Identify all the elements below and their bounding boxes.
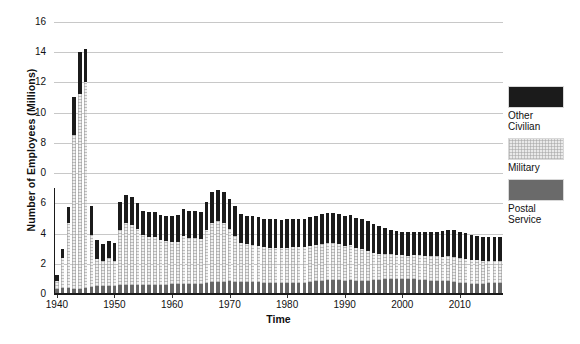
bar-segment-military <box>372 253 376 281</box>
bar-segment-military <box>61 258 65 289</box>
bar-segment-military <box>291 247 295 282</box>
bar-2000 <box>400 232 404 294</box>
bar-segment-other-civilian <box>118 202 122 230</box>
bar-segment-military <box>360 249 364 280</box>
bar-1971 <box>233 206 237 294</box>
bar-segment-other-civilian <box>360 219 364 249</box>
bar-segment-military <box>470 260 474 284</box>
plot-area <box>54 22 503 294</box>
bar-segment-postal-service <box>377 280 381 294</box>
bar-segment-military <box>349 245 353 280</box>
bar-segment-military <box>308 246 312 282</box>
bar-segment-other-civilian <box>95 240 99 259</box>
bar-segment-postal-service <box>326 280 330 294</box>
bar-segment-military <box>418 255 422 279</box>
bar-segment-postal-service <box>349 280 353 294</box>
bar-segment-other-civilian <box>314 216 318 245</box>
bar-segment-military <box>216 221 220 281</box>
y-tick-label: 8 <box>40 138 46 148</box>
bar-segment-other-civilian <box>470 235 474 260</box>
bar-1985 <box>314 216 318 294</box>
bar-1965 <box>199 212 203 294</box>
bar-1963 <box>187 211 191 294</box>
bar-1990 <box>343 216 347 294</box>
bar-segment-other-civilian <box>400 232 404 256</box>
bar-segment-other-civilian <box>101 244 105 261</box>
y-tick-label: 10 <box>35 108 46 118</box>
x-tick-label: 1940 <box>46 299 68 310</box>
bar-2010 <box>458 232 462 294</box>
bar-2014 <box>481 237 485 294</box>
legend-label: Military <box>508 162 574 173</box>
bar-segment-other-civilian <box>262 219 266 247</box>
bar-2006 <box>435 232 439 294</box>
bar-1952 <box>124 195 128 294</box>
bar-segment-other-civilian <box>418 232 422 255</box>
bar-2015 <box>487 237 491 294</box>
bar-segment-postal-service <box>389 279 393 294</box>
bar-segment-other-civilian <box>331 213 335 243</box>
bar-segment-military <box>412 255 416 279</box>
bar-1941 <box>61 249 65 294</box>
bar-segment-postal-service <box>406 279 410 294</box>
bar-segment-other-civilian <box>239 214 243 243</box>
bar-1996 <box>377 226 381 294</box>
bar-1973 <box>245 216 249 294</box>
bar-segment-other-civilian <box>412 232 416 255</box>
bar-segment-postal-service <box>360 281 364 294</box>
bar-segment-military <box>464 259 468 283</box>
bar-1961 <box>176 215 180 294</box>
bar-1953 <box>130 197 134 294</box>
bar-segment-other-civilian <box>366 221 370 251</box>
bar-segment-other-civilian <box>124 195 128 224</box>
bar-segment-other-civilian <box>372 224 376 253</box>
legend-item-other[interactable]: Other Civilian <box>508 86 574 132</box>
y-tick-label: 6 <box>40 198 46 208</box>
bar-segment-military <box>101 261 105 286</box>
bar-segment-other-civilian <box>113 243 117 261</box>
bar-segment-other-civilian <box>458 232 462 258</box>
x-tick-label: 2010 <box>449 299 471 310</box>
bar-segment-military <box>395 255 399 279</box>
bar-segment-other-civilian <box>136 203 140 229</box>
bar-segment-other-civilian <box>257 217 261 246</box>
bar-segment-military <box>314 245 318 282</box>
bar-segment-military <box>320 244 324 281</box>
bar-segment-other-civilian <box>228 199 232 229</box>
legend-item-post[interactable]: Postal Service <box>508 179 574 225</box>
bar-segment-military <box>458 258 462 282</box>
bar-segment-other-civilian <box>164 216 168 241</box>
bar-segment-military <box>141 235 145 285</box>
bar-1940 <box>55 275 59 294</box>
bar-2016 <box>493 237 497 294</box>
y-tick-label: 12 <box>35 77 46 87</box>
bar-segment-military <box>205 230 209 283</box>
bar-segment-military <box>354 248 358 280</box>
bar-segment-military <box>153 237 157 285</box>
bar-segment-military <box>337 244 341 280</box>
x-tick-mark <box>230 295 231 298</box>
bar-segment-other-civilian <box>61 249 65 258</box>
bar-1988 <box>331 213 335 294</box>
bar-segment-other-civilian <box>193 211 197 238</box>
bar-segment-other-civilian <box>90 206 94 235</box>
bar-segment-other-civilian <box>291 219 295 247</box>
bar-1945 <box>84 49 88 294</box>
bar-segment-military <box>423 256 427 280</box>
bar-segment-other-civilian <box>141 211 145 236</box>
bar-1948 <box>101 244 105 294</box>
bar-segment-military <box>90 235 94 287</box>
bar-segment-other-civilian <box>406 232 410 255</box>
bar-segment-military <box>95 259 99 286</box>
bar-segment-military <box>377 254 381 280</box>
bar-segment-military <box>441 257 445 281</box>
y-axis-tick-labels: 16141210806420 <box>0 22 50 294</box>
bar-1999 <box>395 231 399 294</box>
bar-segment-military <box>84 82 88 288</box>
bar-1958 <box>159 215 163 294</box>
x-tick-label: 1970 <box>218 299 240 310</box>
bar-segment-military <box>446 256 450 281</box>
legend-item-mil[interactable]: Military <box>508 138 574 173</box>
bar-1995 <box>372 224 376 294</box>
bar-segment-other-civilian <box>199 212 203 239</box>
